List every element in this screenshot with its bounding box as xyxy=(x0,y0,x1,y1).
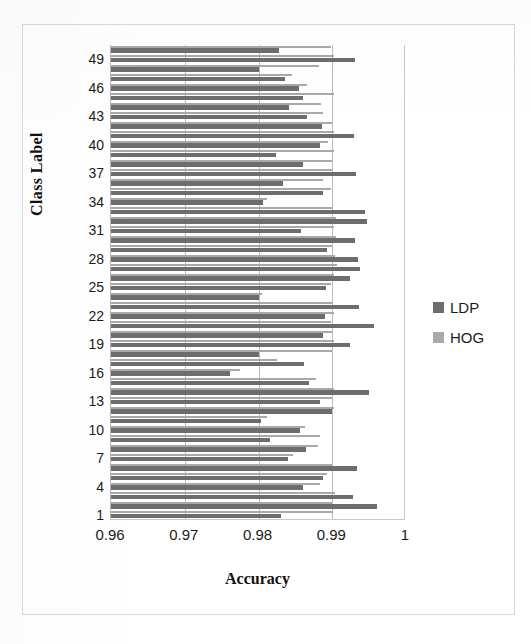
bar-ldp xyxy=(111,476,323,481)
bar-ldp xyxy=(111,210,365,215)
bar-group xyxy=(111,178,404,188)
bar-chart: Class Label 1471013161922252831343740434… xyxy=(0,0,531,644)
bar-ldp xyxy=(111,324,374,329)
bar-group xyxy=(111,93,404,103)
bar-group xyxy=(111,454,404,464)
bar-group xyxy=(111,501,404,511)
bar-ldp xyxy=(111,343,350,348)
bar-ldp xyxy=(111,514,281,519)
legend-swatch-icon xyxy=(433,302,444,313)
bar-ldp xyxy=(111,124,322,129)
bar-ldp xyxy=(111,381,309,386)
bar-group xyxy=(111,74,404,84)
bar-ldp xyxy=(111,172,356,177)
bar-ldp xyxy=(111,238,355,243)
y-axis-tick-label: 28 xyxy=(44,252,104,266)
bar-group xyxy=(111,292,404,302)
bar-ldp xyxy=(111,58,355,63)
y-axis-tick-label: 34 xyxy=(44,195,104,209)
y-axis-tick-label: 46 xyxy=(44,81,104,95)
bar-ldp xyxy=(111,438,270,443)
bar-ldp xyxy=(111,333,323,338)
bar-ldp xyxy=(111,466,357,471)
chart-legend: LDPHOG xyxy=(433,292,508,352)
bar-ldp xyxy=(111,267,360,272)
bar-ldp xyxy=(111,143,320,148)
bar-ldp xyxy=(111,153,276,158)
y-axis-tick-label: 19 xyxy=(44,337,104,351)
bar-ldp xyxy=(111,115,307,120)
y-axis-tick-label: 13 xyxy=(44,394,104,408)
bar-ldp xyxy=(111,352,259,357)
bar-group xyxy=(111,64,404,74)
legend-item[interactable]: HOG xyxy=(433,322,508,352)
bar-ldp xyxy=(111,390,369,395)
y-axis-tick-label: 4 xyxy=(44,480,104,494)
plot-area xyxy=(110,45,405,520)
y-axis-tick-label: 40 xyxy=(44,138,104,152)
bar-group xyxy=(111,359,404,369)
bar-ldp xyxy=(111,48,279,53)
bar-group xyxy=(111,150,404,160)
bar-group xyxy=(111,482,404,492)
bar-ldp xyxy=(111,191,323,196)
bar-ldp xyxy=(111,409,332,414)
bar-ldp xyxy=(111,77,285,82)
bar-ldp xyxy=(111,305,359,310)
bar-group xyxy=(111,473,404,483)
bar-group xyxy=(111,387,404,397)
bar-group xyxy=(111,321,404,331)
bar-group xyxy=(111,416,404,426)
bar-group xyxy=(111,216,404,226)
bar-group xyxy=(111,349,404,359)
bar-ldp xyxy=(111,162,303,167)
bar-group xyxy=(111,273,404,283)
bar-group xyxy=(111,283,404,293)
bar-ldp xyxy=(111,248,327,253)
bar-group xyxy=(111,159,404,169)
bar-group xyxy=(111,463,404,473)
bar-ldp xyxy=(111,134,354,139)
y-axis-tick-label: 37 xyxy=(44,166,104,180)
bar-group xyxy=(111,368,404,378)
bar-group xyxy=(111,140,404,150)
bar-group xyxy=(111,302,404,312)
bar-ldp xyxy=(111,362,304,367)
bar-group xyxy=(111,340,404,350)
bar-group xyxy=(111,197,404,207)
bar-group xyxy=(111,102,404,112)
bar-group xyxy=(111,207,404,217)
y-axis-tick-label: 43 xyxy=(44,109,104,123)
y-axis-tick-label: 31 xyxy=(44,223,104,237)
x-axis-tick-label: 0.98 xyxy=(243,526,272,543)
bar-group xyxy=(111,112,404,122)
y-axis-tick-label: 25 xyxy=(44,280,104,294)
bar-ldp xyxy=(111,105,289,110)
bar-group xyxy=(111,444,404,454)
bar-ldp xyxy=(111,295,259,300)
y-axis-tick-labels: 1471013161922252831343740434649 xyxy=(40,45,104,520)
y-axis-tick-label: 16 xyxy=(44,366,104,380)
legend-item[interactable]: LDP xyxy=(433,292,508,322)
bars-layer xyxy=(111,45,404,519)
bar-ldp xyxy=(111,181,283,186)
bar-group xyxy=(111,121,404,131)
x-axis-tick-label: 0.97 xyxy=(169,526,198,543)
bar-group xyxy=(111,83,404,93)
bar-ldp xyxy=(111,428,300,433)
y-axis-tick-label: 49 xyxy=(44,52,104,66)
bar-ldp xyxy=(111,276,350,281)
bar-group xyxy=(111,330,404,340)
bar-ldp xyxy=(111,229,301,234)
bar-ldp xyxy=(111,286,326,291)
bar-ldp xyxy=(111,219,367,224)
bar-ldp xyxy=(111,495,353,500)
bar-group xyxy=(111,55,404,65)
bar-group xyxy=(111,131,404,141)
bar-ldp xyxy=(111,86,299,91)
bar-ldp xyxy=(111,400,320,405)
chart-page: Class Label 1471013161922252831343740434… xyxy=(0,0,531,644)
bar-ldp xyxy=(111,485,303,490)
bar-group xyxy=(111,406,404,416)
bar-ldp xyxy=(111,371,230,376)
